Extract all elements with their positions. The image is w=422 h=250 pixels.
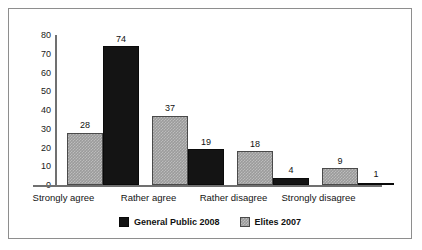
y-tick-50: 50	[25, 87, 51, 96]
bar-elites-strongly-disagree[interactable]	[322, 168, 358, 185]
bar-group-strongly-disagree: 9 1	[311, 35, 396, 185]
chart-frame: 80 70 60 50 40 30 20 10 0 28 74 37	[8, 8, 412, 239]
bar-public-rather-agree[interactable]	[188, 149, 224, 185]
bar-public-rather-disagree[interactable]	[273, 178, 309, 186]
bar-value-public-rather-disagree: 4	[273, 166, 309, 175]
x-axis-line	[33, 185, 382, 187]
y-tick-60: 60	[25, 69, 51, 78]
bar-public-strongly-disagree[interactable]	[358, 183, 394, 186]
y-tick-70: 70	[25, 50, 51, 59]
bar-value-elites-strongly-agree: 28	[67, 121, 103, 130]
y-tick-80: 80	[25, 31, 51, 40]
black-square-swatch-icon	[119, 217, 129, 227]
bar-value-public-rather-agree: 19	[188, 138, 224, 147]
y-axis-tick-labels: 80 70 60 50 40 30 20 10 0	[21, 35, 51, 185]
bar-group-strongly-agree: 28 74	[56, 35, 141, 185]
plot-area: 28 74 37 19 18 4 9	[56, 35, 406, 185]
bar-elites-strongly-agree[interactable]	[67, 133, 103, 186]
bar-elites-rather-disagree[interactable]	[237, 151, 273, 185]
legend-label-elites: Elites 2007	[255, 217, 302, 227]
y-tick-10: 10	[25, 162, 51, 171]
chart-legend: General Public 2008 Elites 2007	[9, 217, 411, 227]
bar-value-public-strongly-agree: 74	[103, 35, 139, 44]
y-tick-40: 40	[25, 106, 51, 115]
legend-entry-elites[interactable]: Elites 2007	[240, 217, 302, 227]
bar-value-elites-strongly-disagree: 9	[322, 157, 358, 166]
gray-square-swatch-icon	[240, 217, 250, 227]
bar-value-elites-rather-disagree: 18	[237, 140, 273, 149]
legend-entry-general-public[interactable]: General Public 2008	[119, 217, 220, 227]
bar-elites-rather-agree[interactable]	[152, 116, 188, 185]
y-tick-30: 30	[25, 125, 51, 134]
bar-value-public-strongly-disagree: 1	[358, 170, 394, 179]
bar-group-rather-disagree: 18 4	[226, 35, 311, 185]
chart-figure: 80 70 60 50 40 30 20 10 0 28 74 37	[0, 0, 422, 250]
bar-group-rather-agree: 37 19	[141, 35, 226, 185]
bar-public-strongly-agree[interactable]	[103, 46, 139, 185]
x-label-strongly-disagree: Strongly disagree	[256, 192, 381, 203]
legend-label-general-public: General Public 2008	[134, 217, 220, 227]
bar-value-elites-rather-agree: 37	[152, 104, 188, 113]
y-tick-20: 20	[25, 144, 51, 153]
